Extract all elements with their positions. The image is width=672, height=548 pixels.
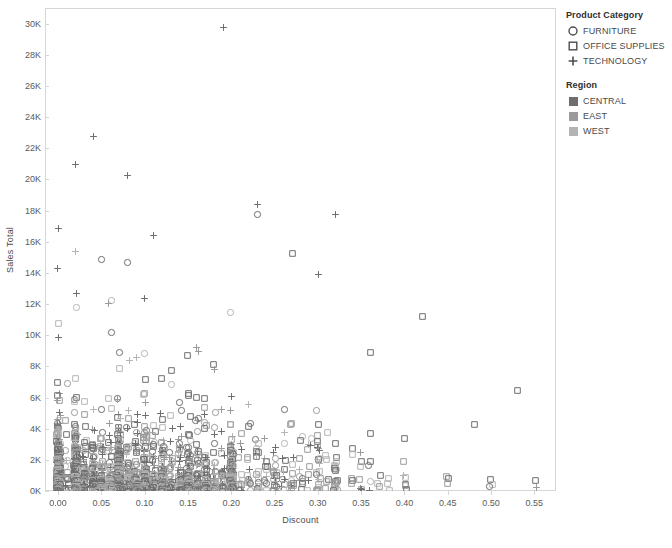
y-axis-tick-label: 24K [17, 112, 41, 122]
plus-marker-icon [566, 54, 580, 68]
x-axis-tick-label: 0.35 [352, 498, 370, 508]
y-axis-tick-mark [45, 335, 49, 336]
legend-title-region: Region [566, 80, 672, 90]
legend-group-region: Region CENTRAL EAST WEST [566, 80, 672, 138]
legend-label-technology: TECHNOLOGY [583, 56, 648, 66]
y-axis-tick-label: 14K [17, 268, 41, 278]
x-axis-tick-label: 0.30 [309, 498, 327, 508]
x-axis-tick-mark [145, 491, 146, 495]
legend-label-furniture: FURNITURE [583, 26, 636, 36]
x-axis-tick-label: 0.15 [179, 498, 197, 508]
y-axis-tick-mark [45, 304, 49, 305]
legend-item-west[interactable]: WEST [566, 124, 672, 138]
legend-item-technology[interactable]: TECHNOLOGY [566, 54, 672, 68]
x-axis-title: Discount [45, 515, 556, 525]
y-axis-tick-mark [45, 366, 49, 367]
color-swatch-central-icon [566, 94, 580, 108]
y-axis-tick-mark [45, 429, 49, 430]
x-axis-tick-mark [58, 491, 59, 495]
color-swatch-east-icon [566, 109, 580, 123]
y-axis-tick-label: 8K [17, 361, 41, 371]
legend-item-east[interactable]: EAST [566, 109, 672, 123]
y-axis-tick-mark [45, 242, 49, 243]
y-axis-tick-labels: 0K2K4K6K8K10K12K14K16K18K20K22K24K26K28K… [14, 8, 41, 491]
x-axis-tick-label: 0.50 [482, 498, 500, 508]
y-axis-tick-mark [45, 55, 49, 56]
y-axis-tick-label: 6K [17, 393, 41, 403]
legend-item-central[interactable]: CENTRAL [566, 94, 672, 108]
x-axis-tick-mark [231, 491, 232, 495]
y-axis-tick-label: 18K [17, 206, 41, 216]
x-axis-tick-mark [404, 491, 405, 495]
y-axis-tick-label: 12K [17, 299, 41, 309]
x-axis-tick-mark [101, 491, 102, 495]
y-axis-tick-mark [45, 117, 49, 118]
y-axis-tick-mark [45, 148, 49, 149]
x-axis-tick-label: 0.40 [396, 498, 414, 508]
legend-item-office-supplies[interactable]: OFFICE SUPPLIES [566, 39, 672, 53]
y-axis-tick-mark [45, 211, 49, 212]
legend-item-furniture[interactable]: FURNITURE [566, 24, 672, 38]
y-axis-tick-label: 0K [17, 486, 41, 496]
y-axis-tick-label: 22K [17, 143, 41, 153]
x-axis-tick-mark [448, 491, 449, 495]
y-axis-tick-label: 20K [17, 174, 41, 184]
y-axis-tick-label: 10K [17, 330, 41, 340]
y-axis-tick-mark [45, 179, 49, 180]
x-axis-tick-mark [318, 491, 319, 495]
y-axis-tick-label: 16K [17, 237, 41, 247]
y-axis-tick-label: 30K [17, 19, 41, 29]
x-axis-tick-mark [491, 491, 492, 495]
x-axis-tick-label: 0.05 [93, 498, 111, 508]
y-axis-tick-mark [45, 398, 49, 399]
y-axis-tick-mark [45, 86, 49, 87]
y-axis-tick-label: 26K [17, 81, 41, 91]
x-axis-tick-label: 0.00 [49, 498, 67, 508]
legend-title-product-category: Product Category [566, 10, 672, 20]
chart-legend: Product Category FURNITURE OFFICE SUPPLI… [566, 10, 672, 150]
x-axis-tick-mark [275, 491, 276, 495]
x-axis-tick-label: 0.20 [222, 498, 240, 508]
legend-label-office-supplies: OFFICE SUPPLIES [583, 41, 665, 51]
legend-label-central: CENTRAL [583, 96, 626, 106]
y-axis-tick-label: 2K [17, 455, 41, 465]
x-axis-tick-mark [188, 491, 189, 495]
y-axis-tick-label: 28K [17, 50, 41, 60]
y-axis-tick-mark [45, 491, 49, 492]
x-axis-tick-labels: 0.000.050.100.150.200.250.300.350.400.45… [0, 498, 672, 512]
square-marker-icon [566, 39, 580, 53]
y-axis-tick-mark [45, 273, 49, 274]
legend-label-west: WEST [583, 126, 610, 136]
legend-label-east: EAST [583, 111, 607, 121]
color-swatch-west-icon [566, 124, 580, 138]
x-axis-tick-label: 0.10 [136, 498, 154, 508]
y-axis-tick-label: 4K [17, 424, 41, 434]
x-axis-tick-mark [361, 491, 362, 495]
x-axis-tick-mark [534, 491, 535, 495]
y-axis-tick-mark [45, 24, 49, 25]
scatter-points-layer [45, 8, 556, 491]
x-axis-tick-label: 0.25 [266, 498, 284, 508]
legend-group-product-category: Product Category FURNITURE OFFICE SUPPLI… [566, 10, 672, 68]
circle-marker-icon [566, 24, 580, 38]
x-axis-tick-label: 0.45 [439, 498, 457, 508]
y-axis-tick-mark [45, 460, 49, 461]
x-axis-tick-label: 0.55 [526, 498, 544, 508]
scatter-plot-figure: Sales Total 0K2K4K6K8K10K12K14K16K18K20K… [0, 0, 672, 548]
